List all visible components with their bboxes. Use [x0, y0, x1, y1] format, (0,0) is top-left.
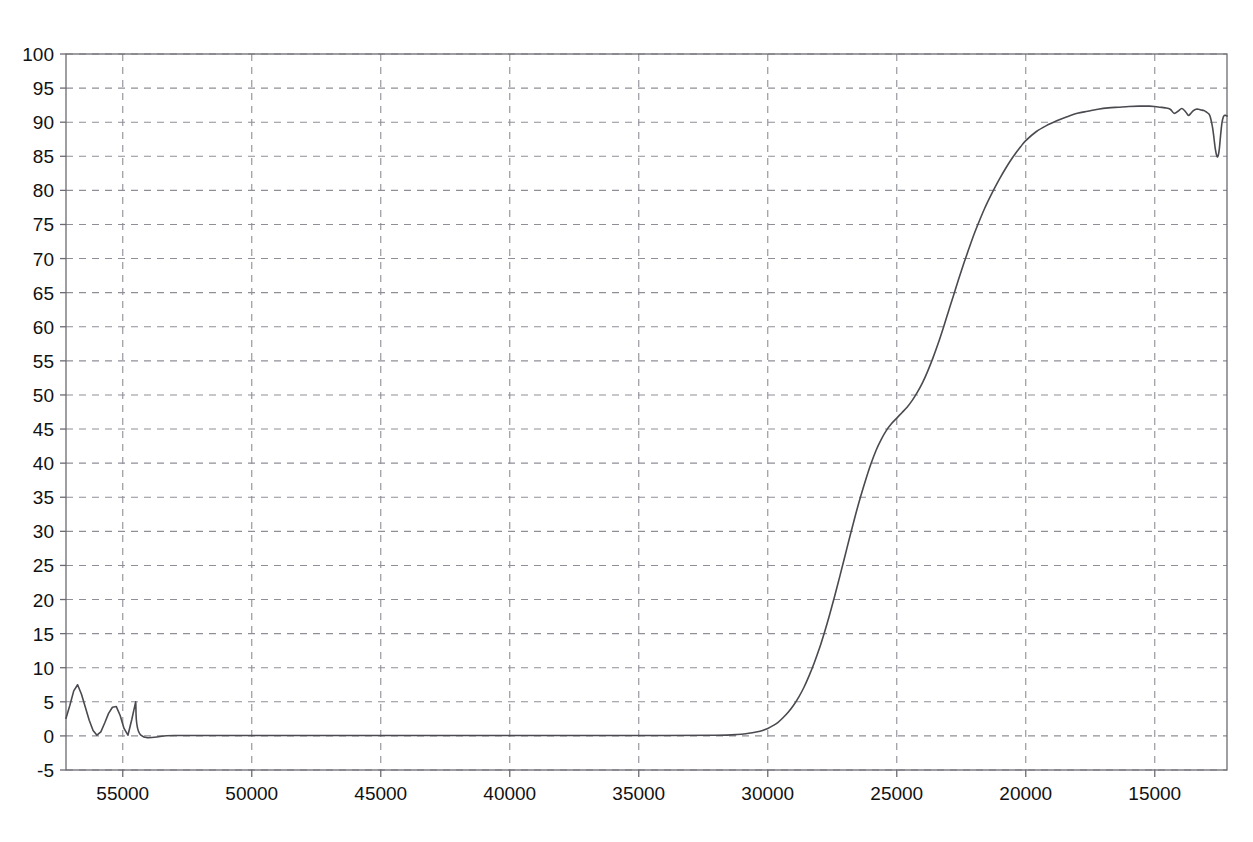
ytick-label: 95: [33, 78, 54, 99]
ytick-label: 70: [33, 249, 54, 270]
ytick-label: 100: [22, 44, 54, 65]
ytick-label: 15: [33, 624, 54, 645]
xtick-label: 30000: [741, 783, 794, 804]
ytick-label: 35: [33, 487, 54, 508]
ytick-label: 65: [33, 283, 54, 304]
ytick-label: 50: [33, 385, 54, 406]
xtick-label: 40000: [483, 783, 536, 804]
ytick-label: 75: [33, 214, 54, 235]
xtick-label: 25000: [870, 783, 923, 804]
ytick-label: 10: [33, 658, 54, 679]
ytick-label: -5: [37, 760, 54, 781]
ytick-label: 40: [33, 453, 54, 474]
ytick-label: 80: [33, 180, 54, 201]
ytick-label: 0: [43, 726, 54, 747]
xtick-label: 50000: [225, 783, 278, 804]
transmittance-line-chart: -505101520253035404550556065707580859095…: [0, 0, 1253, 842]
chart-background: [0, 0, 1253, 842]
ytick-label: 25: [33, 555, 54, 576]
x-axis-tick-labels: 5500050000450004000035000300002500020000…: [96, 783, 1181, 804]
ytick-label: 30: [33, 521, 54, 542]
ytick-label: 60: [33, 317, 54, 338]
chart-root: -505101520253035404550556065707580859095…: [0, 0, 1253, 842]
ytick-label: 90: [33, 112, 54, 133]
ytick-label: 20: [33, 590, 54, 611]
xtick-label: 45000: [354, 783, 407, 804]
ytick-label: 45: [33, 419, 54, 440]
ytick-label: 55: [33, 351, 54, 372]
xtick-label: 35000: [612, 783, 665, 804]
xtick-label: 15000: [1128, 783, 1181, 804]
ytick-label: 5: [43, 692, 54, 713]
ytick-label: 85: [33, 146, 54, 167]
xtick-label: 55000: [96, 783, 149, 804]
xtick-label: 20000: [999, 783, 1052, 804]
